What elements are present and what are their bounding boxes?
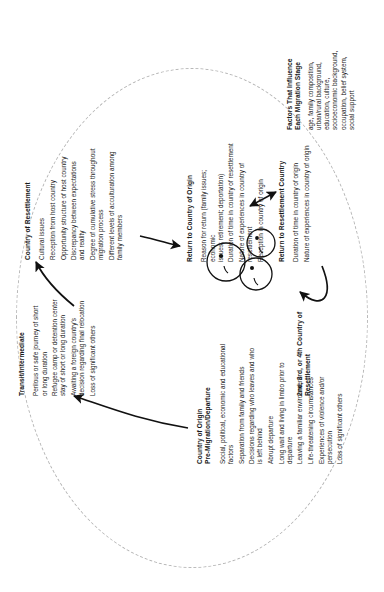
list-item: Duration of time in country of resettlem…	[227, 142, 235, 262]
list-item: Experiences of violence and/or persecuti…	[318, 342, 334, 464]
stage-title-country-of-resettlement: Country of Resettlement	[24, 136, 32, 260]
list-item: Different levels of acculturation among …	[108, 136, 124, 260]
stage-block-country-of-resettlement: Country of Resettlement Cultural issues …	[24, 136, 127, 260]
stage-items-return-to-country-of-origin: Reason for return (family issues; econom…	[200, 142, 265, 262]
stage-title-transit: Transit/Intermediate	[18, 280, 26, 396]
list-item: Decisions regarding who leaves and who i…	[248, 342, 264, 464]
migration-stages-diagram: Transit/Intermediate Perilous or safe jo…	[0, 0, 384, 592]
stage-title-return-to-resettlement-country: Return to Resettlement Country	[278, 138, 286, 262]
list-item: Abrupt departure	[267, 342, 275, 464]
list-item: Reception in country of origin	[257, 142, 265, 262]
list-item: Loss of significant others	[336, 342, 344, 464]
list-item: Reception from host country	[49, 136, 57, 260]
list-item: Awaiting a foreign country's decision re…	[70, 280, 86, 396]
list-item: Cultural issues	[38, 136, 46, 260]
factors-note-body: age, family composition, urban/rural bac…	[307, 8, 356, 130]
stage-block-return-to-resettlement-country: Return to Resettlement Country Duration …	[278, 138, 314, 262]
list-item: Nature of experiences in country of rese…	[238, 142, 254, 262]
list-item: Discrepancy between expectations and rea…	[70, 136, 86, 260]
list-item: Reason for return (family issues; econom…	[200, 142, 225, 262]
list-item: Long wait and living in limbo prior to d…	[278, 342, 294, 464]
stage-block-transit: Transit/Intermediate Perilous or safe jo…	[18, 280, 99, 396]
list-item: Separation from family and friends	[238, 342, 246, 464]
stage-title-country-of-origin: Country of Origin Pre-Migration/Departur…	[196, 342, 213, 464]
list-item: Degree of cumulative stress throughout m…	[89, 136, 105, 260]
arrow-resettlement-to-return-origin	[140, 236, 180, 246]
list-item: Social, political, economic and educatio…	[219, 342, 235, 464]
figure-rotator: Transit/Intermediate Perilous or safe jo…	[0, 0, 384, 592]
stage-title-nth-country-of-resettlement: 2nd, 3rd, or 4th Country of Resettlement	[296, 288, 313, 396]
stage-block-return-to-country-of-origin: Return to Country of Origin Reason for r…	[186, 142, 267, 262]
stage-title-return-to-country-of-origin: Return to Country of Origin	[186, 142, 194, 262]
list-item: Refugee camp or detention center stay of…	[51, 280, 67, 396]
stage-items-country-of-resettlement: Cultural issues Reception from host coun…	[38, 136, 124, 260]
stage-items-country-of-origin: Social, political, economic and educatio…	[219, 342, 345, 464]
stage-items-transit: Perilous or safe journey of short or lon…	[32, 280, 97, 396]
list-item: Perilous or safe journey of short or lon…	[32, 280, 48, 396]
list-item: Nature of experiences in country of orig…	[303, 138, 311, 262]
factors-note: Factors That Influence Each Migration St…	[286, 8, 356, 130]
list-item: Opportunity structure of host country	[60, 136, 68, 260]
factors-note-title: Factors That Influence Each Migration St…	[286, 8, 303, 130]
arrow-origin-to-transit	[74, 396, 188, 428]
stage-block-country-of-origin: Country of Origin Pre-Migration/Departur…	[196, 342, 347, 464]
list-item: Loss of significant others	[89, 280, 97, 396]
stage-block-nth-country-of-resettlement: 2nd, 3rd, or 4th Country of Resettlement	[296, 288, 319, 396]
list-item: Duration of time in country of origin	[292, 138, 300, 262]
stage-items-return-to-resettlement-country: Duration of time in country of origin Na…	[292, 138, 311, 262]
